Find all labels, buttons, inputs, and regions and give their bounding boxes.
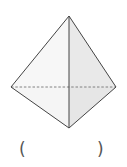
answer-close-paren: ) [97, 139, 104, 159]
answer-open-paren: ( [19, 139, 26, 159]
